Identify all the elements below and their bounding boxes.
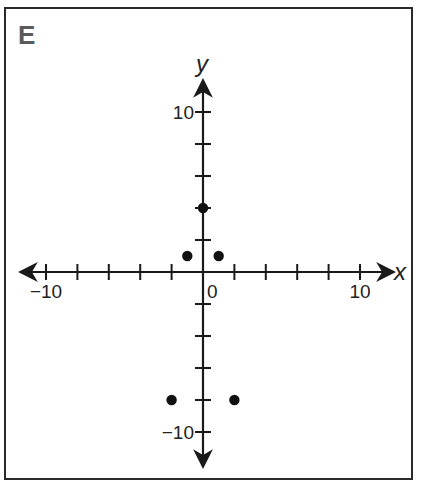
y-tick-label: 10: [173, 102, 194, 123]
data-point: [214, 251, 224, 261]
x-tick-label: −10: [30, 281, 62, 302]
data-point: [182, 251, 192, 261]
y-axis-label: y: [194, 50, 210, 77]
tick-labels: 010−1010−10xy: [30, 50, 407, 443]
data-point: [198, 203, 208, 213]
y-tick-label: −10: [162, 422, 194, 443]
x-tick-label: 0: [207, 281, 218, 302]
coordinate-plane: 010−1010−10xy: [0, 0, 422, 485]
x-axis-label: x: [393, 258, 407, 285]
data-point: [229, 395, 239, 405]
data-point: [166, 395, 176, 405]
x-tick-label: 10: [349, 281, 370, 302]
